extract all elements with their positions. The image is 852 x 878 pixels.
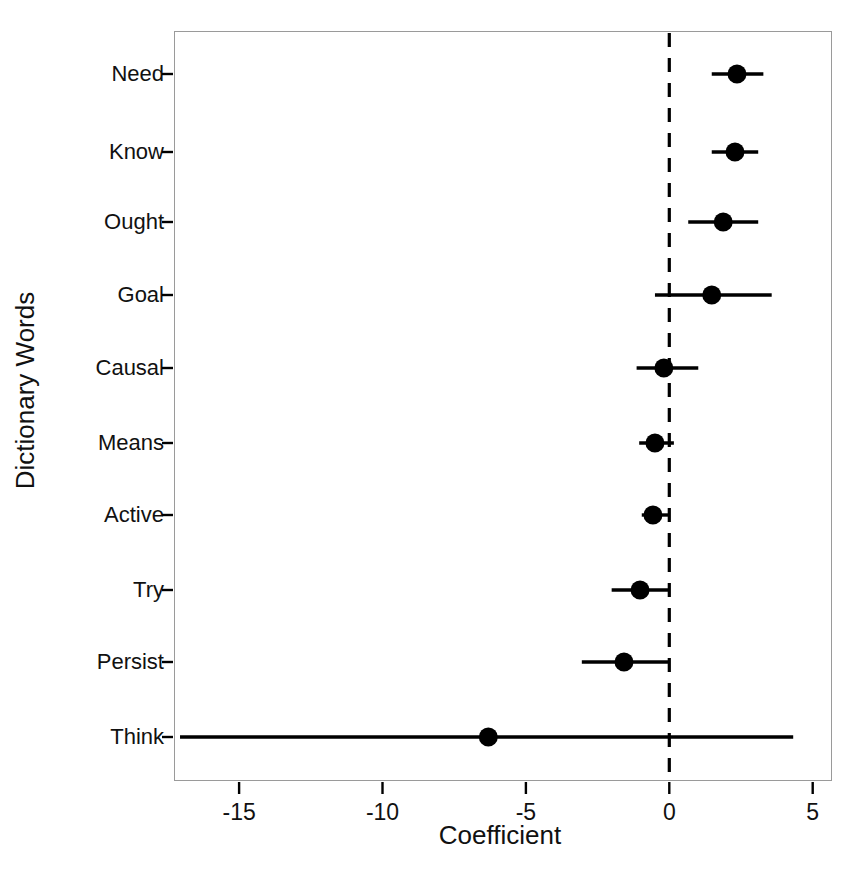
- y-tick-label-ought: Ought: [104, 209, 164, 235]
- y-axis-title: Dictionary Words: [6, 0, 46, 780]
- y-tick-label-try: Try: [133, 577, 164, 603]
- y-tick-label-think: Think: [110, 724, 164, 750]
- y-tick-label-need: Need: [111, 61, 164, 87]
- y-tick-label-active: Active: [104, 502, 164, 528]
- plot-area: [174, 31, 832, 781]
- y-tick-label-know: Know: [109, 139, 164, 165]
- y-axis-title-text: Dictionary Words: [11, 291, 42, 488]
- y-tick-label-persist: Persist: [97, 649, 164, 675]
- y-tick-label-means: Means: [98, 430, 164, 456]
- y-tick-label-causal: Causal: [96, 355, 164, 381]
- y-tick-label-goal: Goal: [118, 282, 164, 308]
- coefficient-plot-figure: Dictionary Words NeedKnowOughtGoalCausal…: [0, 0, 852, 878]
- x-axis-title: Coefficient: [170, 820, 830, 851]
